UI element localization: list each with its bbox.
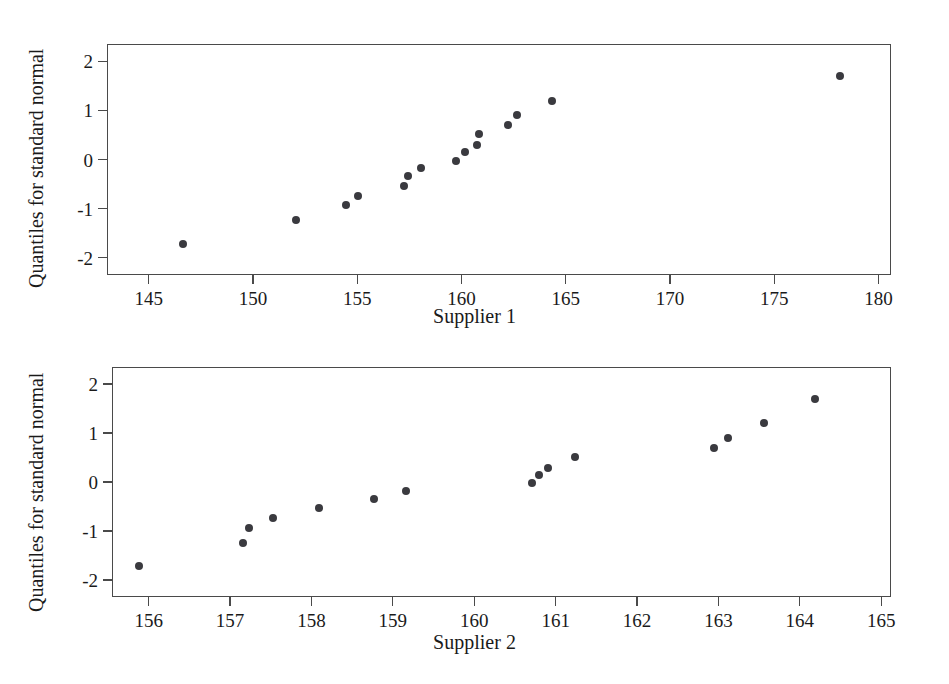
plot-frame-supplier-1: [107, 44, 891, 275]
data-point: [535, 471, 543, 479]
plot-area-supplier-2: [113, 368, 890, 596]
y-axis-tick: [103, 481, 112, 482]
y-axis-tick: [98, 110, 107, 111]
data-point: [370, 495, 378, 503]
data-point: [528, 479, 536, 487]
data-point: [504, 121, 512, 129]
y-axis-tick-label: -1: [82, 521, 98, 540]
x-axis-tick: [799, 597, 800, 606]
x-axis-tick: [229, 597, 230, 606]
x-axis-tick-label: 163: [704, 611, 733, 630]
data-point: [461, 148, 469, 156]
y-axis-tick: [98, 61, 107, 62]
x-axis-tick: [878, 275, 879, 284]
x-axis-tick: [148, 597, 149, 606]
data-point: [342, 201, 350, 209]
y-axis-tick: [103, 383, 112, 384]
y-axis-tick-label: -1: [77, 199, 93, 218]
data-point: [404, 172, 412, 180]
data-point: [245, 524, 253, 532]
data-point: [548, 97, 556, 105]
y-axis-tick: [103, 530, 112, 531]
x-axis-tick-label: 159: [379, 611, 408, 630]
x-axis-tick-label: 164: [786, 611, 815, 630]
y-axis-tick-label: -2: [77, 248, 93, 267]
data-point: [544, 464, 552, 472]
data-point: [402, 487, 410, 495]
x-axis-tick: [718, 597, 719, 606]
data-point: [400, 182, 408, 190]
y-axis-tick-label: 0: [89, 473, 99, 492]
chart-panel-supplier-2: 156157158159160161162163164165210-1-2 Su…: [0, 342, 949, 684]
x-axis-tick: [636, 597, 637, 606]
y-axis-title-supplier-2: Quantiles for standard normal: [26, 373, 46, 612]
y-axis-tick-label: 1: [84, 101, 94, 120]
y-axis-tick: [98, 257, 107, 258]
y-axis-tick-label: 2: [89, 375, 99, 394]
x-axis-tick: [774, 275, 775, 284]
y-axis-title-supplier-1: Quantiles for standard normal: [26, 49, 46, 288]
data-point: [475, 130, 483, 138]
y-axis-tick-label: -2: [82, 570, 98, 589]
data-point: [239, 539, 247, 547]
x-axis-tick: [669, 275, 670, 284]
plot-frame-supplier-2: [112, 367, 891, 597]
y-axis-tick-label: 0: [84, 150, 94, 169]
x-axis-tick-label: 158: [297, 611, 326, 630]
x-axis-tick: [474, 597, 475, 606]
x-axis-title-supplier-2: Supplier 2: [0, 632, 949, 652]
data-point: [811, 395, 819, 403]
data-point: [269, 514, 277, 522]
x-axis-tick: [357, 275, 358, 284]
x-axis-tick: [148, 275, 149, 284]
y-axis-tick: [103, 579, 112, 580]
data-point: [724, 434, 732, 442]
x-axis-tick: [555, 597, 556, 606]
y-axis-tick: [98, 208, 107, 209]
data-point: [571, 453, 579, 461]
x-axis-tick: [252, 275, 253, 284]
data-point: [315, 504, 323, 512]
y-axis-tick-label: 2: [84, 52, 94, 71]
x-axis-tick: [392, 597, 393, 606]
data-point: [292, 216, 300, 224]
data-point: [452, 157, 460, 165]
figure-page: 145150155160165170175180210-1-2 Supplier…: [0, 0, 949, 684]
y-axis-tick: [103, 432, 112, 433]
data-point: [179, 240, 187, 248]
data-point: [760, 419, 768, 427]
x-axis-tick-label: 161: [541, 611, 570, 630]
data-point: [473, 141, 481, 149]
x-axis-tick-label: 160: [460, 611, 489, 630]
data-point: [513, 111, 521, 119]
x-axis-tick-label: 156: [134, 611, 163, 630]
x-axis-tick: [461, 275, 462, 284]
x-axis-tick-label: 157: [216, 611, 245, 630]
data-point: [354, 192, 362, 200]
data-point: [417, 164, 425, 172]
x-axis-tick-label: 162: [623, 611, 652, 630]
x-axis-tick: [565, 275, 566, 284]
data-point: [836, 72, 844, 80]
y-axis-tick: [98, 159, 107, 160]
x-axis-tick-label: 165: [867, 611, 896, 630]
y-axis-tick-label: 1: [89, 424, 99, 443]
data-point: [135, 562, 143, 570]
x-axis-tick: [881, 597, 882, 606]
plot-area-supplier-1: [108, 45, 890, 274]
chart-panel-supplier-1: 145150155160165170175180210-1-2 Supplier…: [0, 0, 949, 342]
data-point: [710, 444, 718, 452]
x-axis-tick: [311, 597, 312, 606]
x-axis-title-supplier-1: Supplier 1: [0, 306, 949, 326]
